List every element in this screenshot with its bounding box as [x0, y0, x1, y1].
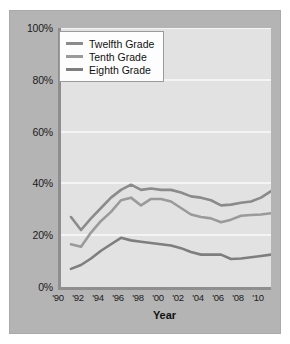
y-axis-tick-label: 60% — [33, 126, 53, 138]
x-axis-labels: '90'92'94'96'98'00'02'04'06'08'10 — [58, 292, 271, 308]
x-axis-tick-label: '94 — [92, 292, 103, 303]
legend-item: Twelfth Grade — [66, 37, 154, 50]
series-line — [71, 185, 271, 230]
chart-figure: 100%80%60%40%20%0% Twelfth GradeTenth Gr… — [0, 0, 290, 344]
x-axis-tick-label: '90 — [52, 292, 63, 303]
legend-swatch-icon — [66, 68, 83, 71]
series-line — [71, 238, 271, 269]
x-axis-tick-label: '06 — [212, 292, 223, 303]
legend-swatch-icon — [66, 55, 83, 58]
y-axis-tick-label: 100% — [27, 22, 53, 34]
x-axis-tick-label: '96 — [112, 292, 123, 303]
x-axis-tick-label: '00 — [152, 292, 163, 303]
chart-legend: Twelfth GradeTenth GradeEighth Grade — [59, 31, 164, 82]
legend-swatch-icon — [66, 42, 83, 45]
legend-item: Tenth Grade — [66, 50, 154, 63]
series-line — [71, 198, 271, 247]
y-axis-labels: 100%80%60%40%20%0% — [9, 28, 55, 287]
y-axis-tick-label: 0% — [38, 281, 53, 293]
x-axis-tick-label: '92 — [72, 292, 83, 303]
legend-item-label: Eighth Grade — [89, 64, 151, 76]
x-axis-tick-label: '02 — [172, 292, 183, 303]
x-axis-tick-label: '04 — [192, 292, 203, 303]
y-axis-tick-label: 20% — [33, 229, 53, 241]
y-axis-tick-label: 40% — [33, 177, 53, 189]
legend-item-label: Twelfth Grade — [89, 38, 154, 50]
x-axis-tick-label: '08 — [232, 292, 243, 303]
x-axis-tick-label: '10 — [252, 292, 263, 303]
legend-item: Eighth Grade — [66, 63, 154, 76]
x-axis-tick-label: '98 — [132, 292, 143, 303]
y-axis-tick-label: 80% — [33, 74, 53, 86]
legend-item-label: Tenth Grade — [89, 51, 147, 63]
x-axis-title: Year — [58, 309, 271, 321]
